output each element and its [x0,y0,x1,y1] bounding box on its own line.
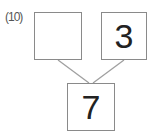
whole-box: 7 [67,83,115,131]
left-connector [58,60,89,83]
right-connector [93,60,124,83]
bottom-box-value: 7 [82,88,101,127]
right-box-value: 3 [115,17,134,56]
part-box-right: 3 [101,12,147,60]
blank-answer-box[interactable] [34,12,82,60]
